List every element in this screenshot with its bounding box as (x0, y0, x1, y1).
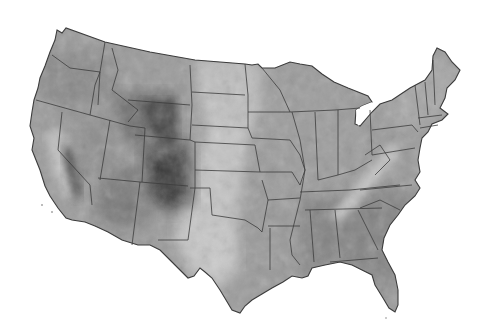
island-speck (51, 211, 53, 213)
land-shading (0, 0, 497, 333)
florida-keys-speck (385, 317, 387, 319)
us-map-svg (0, 0, 497, 333)
island-speck (41, 204, 43, 206)
us-map (0, 0, 497, 333)
